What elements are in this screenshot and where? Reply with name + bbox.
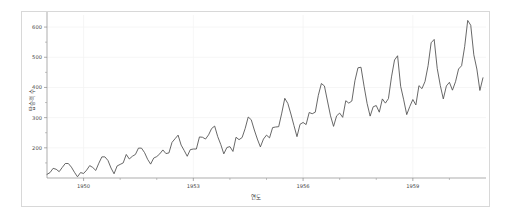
x-tick-label: 1956 — [296, 183, 309, 189]
x-tick-label: 1950 — [77, 183, 90, 189]
series-airpassengers — [47, 20, 483, 176]
y-axis-title: 탑승객 수 — [28, 89, 36, 111]
axis-lines — [47, 12, 486, 178]
y-tick-label: 300 — [32, 115, 42, 121]
y-tick-label: 600 — [32, 24, 42, 30]
y-tick-label: 500 — [32, 54, 42, 60]
gridlines — [47, 15, 486, 178]
y-axis-tick-labels: 200300400500600 — [32, 24, 42, 151]
y-tick-label: 200 — [32, 145, 42, 151]
data-series-line — [47, 20, 483, 176]
x-tick-label: 1959 — [406, 183, 419, 189]
x-axis-tick-labels: 1950195319561959 — [77, 183, 419, 189]
line-chart-svg: 200300400500600 1950195319561959 탑승객 수 연… — [0, 0, 510, 220]
chart-figure: 200300400500600 1950195319561959 탑승객 수 연… — [0, 0, 510, 220]
tick-marks — [44, 27, 449, 181]
x-tick-label: 1953 — [187, 183, 200, 189]
x-axis-title: 연도 — [251, 193, 261, 200]
